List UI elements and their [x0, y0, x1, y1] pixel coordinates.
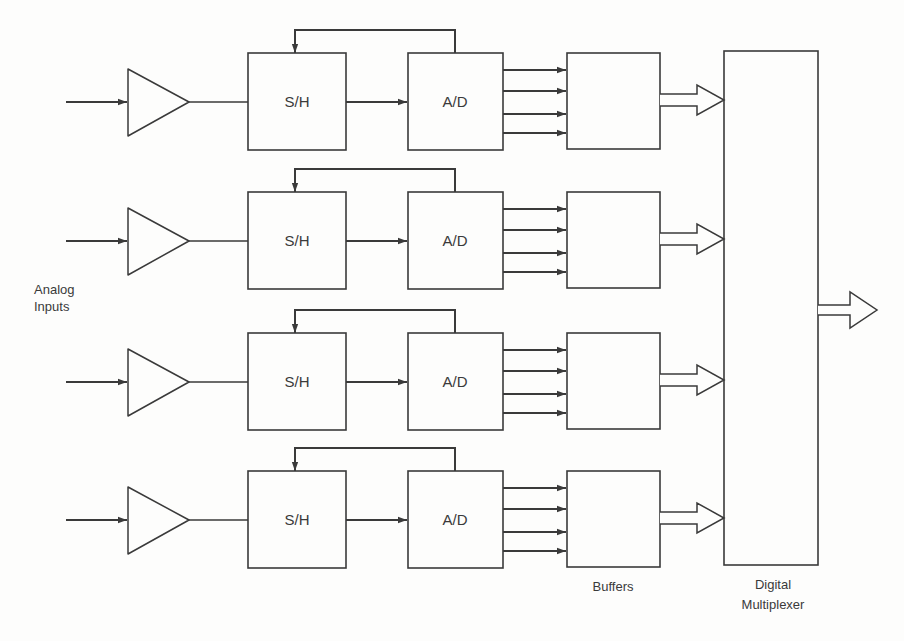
bus-arrow-icon — [660, 224, 724, 254]
digital-multiplexer-block — [724, 51, 818, 565]
bus-arrow-icon — [660, 85, 724, 115]
bus-arrow-icon — [660, 365, 724, 395]
multiplexer-label-line1: Digital — [755, 577, 791, 592]
analog-inputs-label-line2: Inputs — [34, 299, 70, 314]
sample-hold-label: S/H — [284, 373, 309, 390]
multiplexer-label-line2: Multiplexer — [742, 597, 806, 612]
ad-converter-label: A/D — [442, 373, 467, 390]
channel-row-4: S/HA/D — [66, 448, 724, 568]
channel-row-1: S/HA/D — [66, 30, 724, 150]
channel-row-2: S/HA/D — [66, 169, 724, 289]
multiplexer-output-arrow-icon — [818, 292, 877, 328]
diagram-canvas: S/HA/DS/HA/DS/HA/DS/HA/D Analog Inputs B… — [0, 0, 904, 641]
bus-arrow-icon — [660, 503, 724, 533]
amplifier-triangle-icon — [128, 208, 189, 275]
sample-hold-label: S/H — [284, 511, 309, 528]
amplifier-triangle-icon — [128, 69, 189, 136]
sample-hold-label: S/H — [284, 93, 309, 110]
ad-converter-label: A/D — [442, 232, 467, 249]
feedback-loop-arrow-icon — [295, 169, 455, 192]
amplifier-triangle-icon — [128, 487, 189, 554]
feedback-loop-arrow-icon — [295, 30, 455, 53]
buffer-block — [567, 192, 660, 288]
ad-converter-label: A/D — [442, 93, 467, 110]
buffer-block — [567, 471, 660, 567]
sample-hold-label: S/H — [284, 232, 309, 249]
buffer-block — [567, 333, 660, 429]
buffer-block — [567, 53, 660, 149]
ad-converter-label: A/D — [442, 511, 467, 528]
feedback-loop-arrow-icon — [295, 448, 455, 471]
analog-inputs-label-line1: Analog — [34, 282, 74, 297]
block-diagram: S/HA/DS/HA/DS/HA/DS/HA/D Analog Inputs B… — [0, 0, 904, 641]
feedback-loop-arrow-icon — [295, 310, 455, 333]
channel-row-3: S/HA/D — [66, 310, 724, 430]
buffers-label: Buffers — [593, 579, 634, 594]
amplifier-triangle-icon — [128, 349, 189, 416]
